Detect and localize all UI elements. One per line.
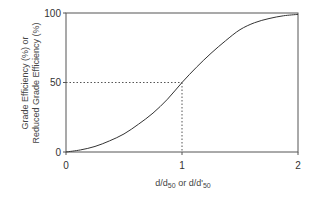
svg-text:0: 0 xyxy=(55,147,61,158)
y-axis-label-line2: Reduced Grade Efficiency (%) xyxy=(31,23,41,144)
grade-efficiency-chart: 050100 012 Grade Efficiency (%) or Reduc… xyxy=(0,0,312,200)
d50-guides xyxy=(66,83,182,153)
y-axis-ticks: 050100 xyxy=(44,8,66,158)
svg-text:50: 50 xyxy=(50,77,62,88)
svg-text:100: 100 xyxy=(44,8,61,19)
efficiency-curve xyxy=(66,14,298,152)
x-axis-ticks: 012 xyxy=(63,152,301,171)
y-axis-label-line1: Grade Efficiency (%) or xyxy=(20,37,30,130)
svg-text:1: 1 xyxy=(179,160,185,171)
svg-text:2: 2 xyxy=(295,160,301,171)
svg-text:0: 0 xyxy=(63,160,69,171)
x-axis-label: d/d50 or d/d'50 xyxy=(155,178,210,189)
